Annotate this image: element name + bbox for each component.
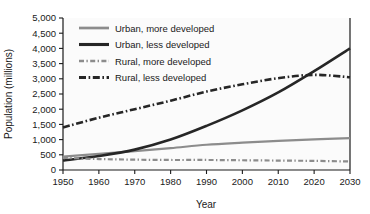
population-line-chart: 05001,0001,5002,0002,5003,0003,5004,0004… [0, 0, 370, 214]
legend-label-2: Rural, more developed [115, 56, 211, 67]
y-tick-label: 1,000 [32, 134, 56, 145]
y-tick-label: 2,500 [32, 88, 56, 99]
y-tick-label: 3,000 [32, 73, 56, 84]
x-tick-label: 1970 [124, 176, 145, 187]
y-tick-label: 1,500 [32, 119, 56, 130]
y-tick-label: 5,000 [32, 12, 56, 23]
x-tick-label: 1960 [88, 176, 109, 187]
legend-label-0: Urban, more developed [115, 23, 214, 34]
x-tick-label: 2000 [232, 176, 253, 187]
y-tick-label: 0 [51, 164, 56, 175]
y-tick-label: 2,000 [32, 104, 56, 115]
legend-label-3: Rural, less developed [115, 72, 206, 83]
legend-label-1: Urban, less developed [115, 39, 210, 50]
x-tick-label: 1950 [52, 176, 73, 187]
x-tick-label: 1990 [196, 176, 217, 187]
y-tick-label: 500 [40, 149, 56, 160]
y-tick-label: 3,500 [32, 58, 56, 69]
x-tick-label: 1980 [160, 176, 181, 187]
x-tick-label: 2030 [339, 176, 360, 187]
x-axis-title: Year [196, 199, 217, 210]
x-tick-label: 2020 [304, 176, 325, 187]
x-axis-tick-labels: 195019601970198019902000201020202030 [52, 176, 360, 187]
y-axis-title: Population (millions) [3, 49, 14, 139]
y-tick-label: 4,000 [32, 43, 56, 54]
y-tick-label: 4,500 [32, 28, 56, 39]
x-tick-label: 2010 [268, 176, 289, 187]
chart-figure: 05001,0001,5002,0002,5003,0003,5004,0004… [0, 0, 370, 214]
